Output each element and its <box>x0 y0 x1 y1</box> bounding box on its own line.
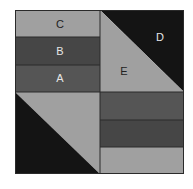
label-b: B <box>56 45 63 57</box>
label-d: D <box>156 31 164 43</box>
quilt-diagram: C B A D E <box>15 10 184 174</box>
stripe-bottom-right-3 <box>100 147 184 174</box>
stripe-bottom-right-1 <box>100 92 184 120</box>
label-e: E <box>120 65 127 77</box>
label-c: C <box>56 18 64 30</box>
label-a: A <box>56 72 64 84</box>
stripe-bottom-right-2 <box>100 120 184 147</box>
